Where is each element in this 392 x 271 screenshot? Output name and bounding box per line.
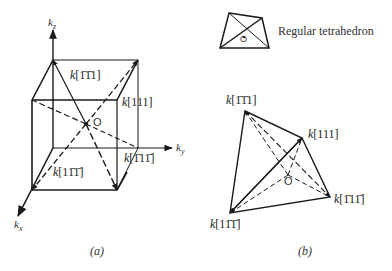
label-b-bar1bar1-1: k[1̄1̄1] — [226, 94, 256, 106]
kx-axis-label: kx — [14, 218, 22, 233]
label-a-bar1-1-bar1: k[1̄11̄] — [124, 152, 154, 164]
label-a-bar1bar1-1: k[1̄1̄1] — [70, 69, 100, 81]
label-a-111: k[111] — [122, 96, 152, 108]
kx-axis — [18, 148, 53, 216]
label-b-1-bar1bar1: k[11̄1̄] — [210, 218, 240, 230]
caption-a: (a) — [90, 244, 104, 259]
label-b-111: k[111] — [308, 128, 338, 140]
kz-axis-label: kz — [48, 16, 56, 31]
origin-label-a: O — [93, 116, 102, 128]
origin-label-b: O — [284, 175, 293, 187]
caption-b: (b) — [298, 244, 312, 259]
label-a-1-bar1bar1: k[11̄1̄] — [53, 166, 83, 178]
label-b-bar1-1-bar1: k[1̄11̄] — [334, 193, 364, 205]
legend-origin-label: O — [240, 34, 247, 44]
vector-a-1bar1bar1 — [32, 124, 86, 190]
ky-axis-label: ky — [176, 141, 184, 156]
legend-label: Regular tetrahedron — [278, 24, 374, 39]
